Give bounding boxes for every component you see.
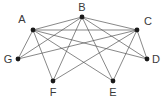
- graph-node-e: [111, 79, 116, 84]
- graph-edge-a-g: [18, 30, 33, 59]
- graph-node-d: [145, 57, 150, 62]
- graph-node-label-e: E: [109, 87, 116, 98]
- graph-edge-b-c: [82, 17, 137, 30]
- graph-edge-b-d: [82, 17, 147, 59]
- graph-node-b: [80, 15, 85, 20]
- graph-node-f: [51, 79, 56, 84]
- edge-layer: [18, 17, 147, 81]
- graph-node-c: [135, 28, 140, 33]
- graph-node-g: [16, 57, 21, 62]
- graph-edge-c-g: [18, 30, 137, 59]
- graph-node-label-b: B: [78, 2, 85, 13]
- graph-figure: ABCDEFG: [0, 0, 163, 99]
- graph-node-label-a: A: [18, 14, 25, 25]
- graph-edge-c-f: [53, 30, 137, 81]
- graph-node-label-f: F: [50, 87, 57, 98]
- graph-node-label-c: C: [144, 16, 152, 27]
- node-layer: [16, 15, 150, 84]
- graph-edge-a-b: [33, 17, 82, 30]
- graph-node-a: [31, 28, 36, 33]
- graph-edge-c-d: [137, 30, 147, 59]
- graph-node-label-g: G: [4, 54, 13, 65]
- graph-node-label-d: D: [152, 54, 160, 65]
